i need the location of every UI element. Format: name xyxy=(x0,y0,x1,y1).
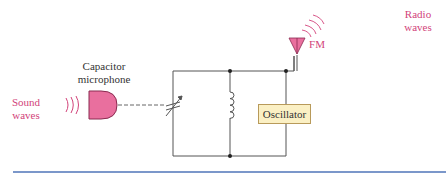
junction-dot xyxy=(284,69,288,73)
junction-dot xyxy=(228,69,232,73)
circuit-diagram xyxy=(0,0,446,175)
radio-waves-icon xyxy=(302,15,324,37)
microphone-icon xyxy=(89,91,117,119)
junction-dot xyxy=(228,154,232,158)
fm-label: FM xyxy=(303,38,331,51)
sound-waves-label: Sound waves xyxy=(6,96,46,122)
radio-waves-label: Radio waves xyxy=(398,8,438,34)
oscillator-box: Oscillator xyxy=(258,104,311,124)
capacitor-microphone-label: Capacitor microphone xyxy=(72,60,136,86)
sound-waves-icon xyxy=(66,96,79,114)
inductor-icon xyxy=(230,92,234,118)
variable-capacitor-icon xyxy=(166,96,182,116)
